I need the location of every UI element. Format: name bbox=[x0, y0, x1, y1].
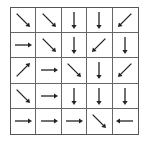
arrow-down-icon bbox=[63, 85, 85, 107]
grid-cell bbox=[62, 8, 87, 33]
arrow-down-icon bbox=[114, 34, 136, 56]
grid-cell bbox=[113, 8, 138, 33]
grid-cell bbox=[36, 109, 61, 134]
arrow-down-icon bbox=[63, 34, 85, 56]
arrow-down-right-icon bbox=[88, 110, 110, 132]
arrow-down-right-icon bbox=[63, 59, 85, 81]
grid-cell bbox=[36, 33, 61, 58]
grid-cell bbox=[113, 109, 138, 134]
grid-cell bbox=[87, 109, 112, 134]
grid-cell bbox=[11, 33, 36, 58]
grid-cell bbox=[87, 8, 112, 33]
arrow-down-icon bbox=[63, 9, 85, 31]
grid-cell bbox=[36, 8, 61, 33]
grid-cell bbox=[11, 58, 36, 83]
grid-cell bbox=[87, 84, 112, 109]
arrow-right-icon bbox=[38, 85, 60, 107]
arrow-right-icon bbox=[63, 110, 85, 132]
arrow-down-right-icon bbox=[38, 34, 60, 56]
grid-cell bbox=[62, 84, 87, 109]
grid-cell bbox=[87, 33, 112, 58]
arrow-down-icon bbox=[88, 9, 110, 31]
grid-cell bbox=[87, 58, 112, 83]
arrow-grid bbox=[10, 7, 139, 135]
grid-cell bbox=[11, 8, 36, 33]
grid-cell bbox=[11, 84, 36, 109]
grid-cell bbox=[11, 109, 36, 134]
arrow-right-icon bbox=[12, 110, 34, 132]
grid-cell bbox=[113, 58, 138, 83]
arrow-right-icon bbox=[38, 59, 60, 81]
arrow-down-right-icon bbox=[38, 9, 60, 31]
arrow-down-left-icon bbox=[114, 9, 136, 31]
arrow-right-icon bbox=[12, 34, 34, 56]
grid-cell bbox=[36, 58, 61, 83]
grid-cell bbox=[113, 33, 138, 58]
arrow-up-right-icon bbox=[12, 59, 34, 81]
grid-cell bbox=[62, 33, 87, 58]
arrow-down-left-icon bbox=[114, 59, 136, 81]
arrow-down-right-icon bbox=[12, 9, 34, 31]
grid-cell bbox=[36, 84, 61, 109]
arrow-left-icon bbox=[114, 110, 136, 132]
arrow-down-icon bbox=[88, 59, 110, 81]
arrow-down-left-icon bbox=[88, 34, 110, 56]
arrow-down-icon bbox=[114, 85, 136, 107]
arrow-right-icon bbox=[38, 110, 60, 132]
arrow-down-icon bbox=[88, 85, 110, 107]
arrow-down-right-icon bbox=[12, 85, 34, 107]
grid-cell bbox=[113, 84, 138, 109]
grid-cell bbox=[62, 58, 87, 83]
grid-cell bbox=[62, 109, 87, 134]
